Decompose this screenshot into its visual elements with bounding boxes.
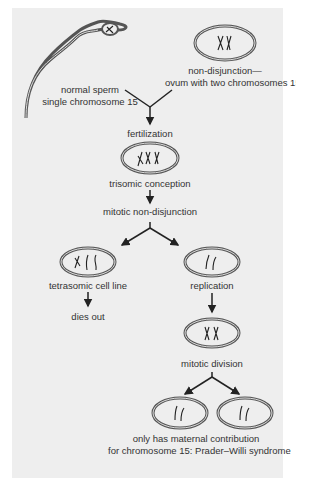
trisomic-cell-icon [122, 143, 178, 173]
dies-out-label: dies out [48, 311, 128, 323]
split-arrows [122, 222, 178, 245]
ovum-label: non-disjunction— ovum with two chromosom… [165, 65, 285, 89]
tetrasomic-cell-icon [61, 248, 115, 276]
mitotic-division-label: mitotic division [162, 358, 262, 370]
trisomic-conception-label: trisomic conception [90, 178, 210, 190]
replication-label: replication [172, 280, 252, 292]
final-split-arrows [185, 372, 239, 394]
fertilization-label: fertilization [100, 128, 200, 140]
replication-cell-icon [185, 248, 239, 276]
outcome-label: only has maternal contribution for chrom… [108, 433, 284, 457]
ovum-cell-icon [195, 26, 255, 60]
tetrasomic-cell-line-label: tetrasomic cell line [38, 280, 138, 292]
daughter-cell-left-icon [153, 398, 207, 428]
sperm-label: normal sperm single chromosome 15 [40, 84, 140, 108]
daughter-cell-right-icon [218, 398, 272, 428]
mitotic-division-cell-icon [185, 319, 239, 347]
mitotic-non-disjunction-label: mitotic non-disjunction [80, 206, 220, 218]
